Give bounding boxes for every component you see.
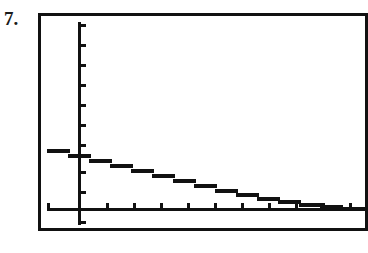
plot-area <box>41 16 365 228</box>
problem-number-label: 7. <box>4 9 18 28</box>
graph-plot-svg <box>41 16 365 228</box>
decay-curve <box>47 149 365 211</box>
y-axis <box>78 22 86 225</box>
calculator-screen <box>38 13 368 231</box>
